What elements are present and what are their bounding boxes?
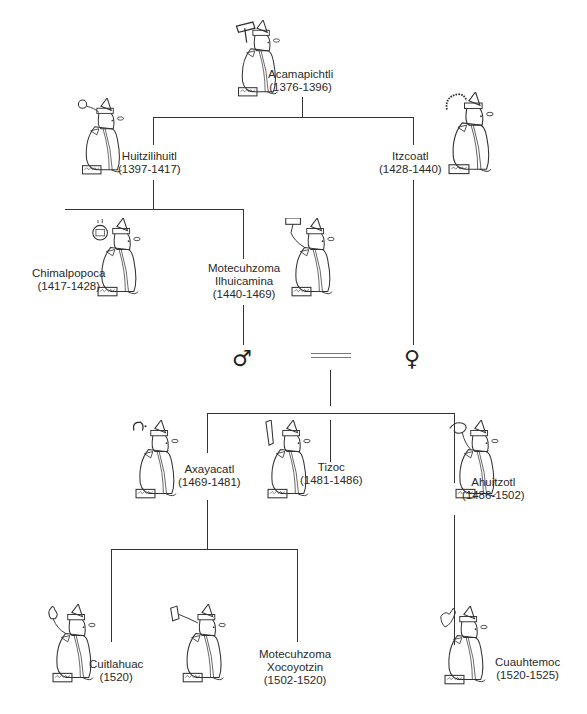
- male-symbol-icon: ♂: [232, 348, 252, 370]
- ruler-years: (1417-1428): [32, 280, 106, 293]
- connector: [330, 370, 331, 406]
- connector: [207, 413, 455, 414]
- ruler-name: Acamapichtli: [268, 68, 333, 81]
- label-ahuitzotl: Ahuitzotl (1486-1502): [462, 476, 525, 502]
- label-axayacatl: Axayacatl (1469-1481): [178, 463, 241, 489]
- ruler-years: (1469-1481): [178, 476, 241, 489]
- ruler-years: (1376-1396): [268, 81, 333, 94]
- ruler-name: Cuitlahuac: [89, 658, 143, 671]
- figure-itzcoatl: [440, 92, 500, 178]
- connector: [243, 209, 244, 259]
- connector: [302, 97, 303, 117]
- connector: [297, 549, 298, 642]
- ruler-years: (1520): [89, 671, 143, 684]
- figure-motecuhzoma-ilhuicamina: [282, 218, 342, 300]
- label-motecuhzoma-xocoyotzin: Motecuhzoma Xocoyotzin (1502-1520): [259, 648, 331, 687]
- ruler-years: (1428-1440): [379, 163, 442, 176]
- connector: [153, 117, 154, 145]
- ruler-name: Xocoyotzin: [259, 661, 331, 674]
- ruler-years: (1486-1502): [462, 489, 525, 502]
- ruler-years: (1397-1417): [118, 163, 181, 176]
- connector: [65, 209, 244, 210]
- ruler-name: Tizoc: [300, 461, 363, 474]
- connector: [153, 180, 154, 210]
- connector: [207, 413, 208, 453]
- ruler-name: Huitzilihuitl: [118, 150, 181, 163]
- connector: [413, 180, 414, 345]
- figure-motecuhzoma-xocoyotzin: [166, 604, 232, 686]
- female-symbol-icon: ♀: [404, 348, 420, 370]
- connector: [111, 549, 112, 642]
- ruler-name: Motecuhzoma: [259, 648, 331, 661]
- ruler-name: Motecuhzoma: [208, 262, 280, 275]
- ruler-name: Ahuitzotl: [462, 476, 525, 489]
- label-tizoc: Tizoc (1481-1486): [300, 461, 363, 487]
- ruler-name: Axayacatl: [178, 463, 241, 476]
- label-itzcoatl: Itzcoatl (1428-1440): [379, 150, 442, 176]
- label-huitzilihuitl: Huitzilihuitl (1397-1417): [118, 150, 181, 176]
- connector: [153, 117, 414, 118]
- connector: [111, 549, 298, 550]
- connector: [207, 500, 208, 550]
- ruler-name: Itzcoatl: [379, 150, 442, 163]
- marriage-equals-icon: [311, 353, 351, 361]
- ruler-years: (1502-1520): [259, 674, 331, 687]
- connector: [330, 420, 331, 462]
- label-acamapichtli: Acamapichtli (1376-1396): [268, 68, 333, 94]
- connector: [413, 117, 414, 145]
- label-motecuhzoma-ilhuicamina: Motecuhzoma Ilhuicamina (1440-1469): [208, 262, 280, 301]
- connector: [243, 305, 244, 345]
- figure-cuauhtemoc: [436, 606, 494, 688]
- figure-axayacatl: [126, 420, 186, 502]
- ruler-years: (1440-1469): [208, 288, 280, 301]
- ruler-years: (1520-1525): [495, 669, 560, 682]
- ruler-years: (1481-1486): [300, 474, 363, 487]
- ruler-name: Chimalpopoca: [32, 267, 106, 280]
- label-cuitlahuac: Cuitlahuac (1520): [89, 658, 143, 684]
- label-chimalpopoca: Chimalpopoca (1417-1428): [32, 267, 106, 293]
- ruler-name: Cuauhtemoc: [495, 656, 560, 669]
- label-cuauhtemoc: Cuauhtemoc (1520-1525): [495, 656, 560, 682]
- ruler-name: Ilhuicamina: [208, 275, 280, 288]
